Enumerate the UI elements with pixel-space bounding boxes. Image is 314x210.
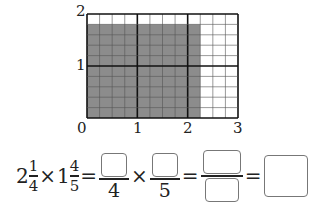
product-fraction [201,150,243,202]
a-numerator: 1 [29,158,39,174]
mixed-number-b-fraction: 4 5 [70,158,80,193]
a-denominator: 4 [29,178,39,194]
y-label-1: 1 [76,58,86,73]
multiplication-equation: 2 1 4 × 1 4 5 = 4 × 5 = = [16,146,308,206]
answer-box-product-numerator[interactable] [203,150,241,174]
times-sign: × [39,164,56,188]
y-label-2: 2 [76,4,86,19]
x-label-1: 1 [133,121,143,136]
answer-box-numerator-1[interactable] [101,153,127,177]
denominator-1: 4 [108,181,120,199]
answer-box-result[interactable] [264,155,308,197]
b-numerator: 4 [70,158,80,174]
improper-fraction-1: 4 [99,153,129,199]
denominator-2: 5 [159,181,171,199]
x-label-2: 2 [183,121,193,136]
answer-box-product-denominator[interactable] [205,178,239,202]
mixed-number-a-fraction: 1 4 [29,158,39,193]
improper-fraction-2: 5 [150,153,180,199]
times-sign: × [131,164,148,188]
mixed-number-b-whole: 1 [57,164,70,188]
equals-sign: = [80,164,97,188]
equals-sign: = [245,164,262,188]
x-label-0: 0 [77,121,87,136]
area-model-grid [0,0,314,140]
mixed-number-a-whole: 2 [16,164,29,188]
equals-sign: = [182,164,199,188]
x-label-3: 3 [233,121,243,136]
fraction-bar [201,175,243,177]
answer-box-numerator-2[interactable] [152,153,178,177]
b-denominator: 5 [70,178,80,194]
